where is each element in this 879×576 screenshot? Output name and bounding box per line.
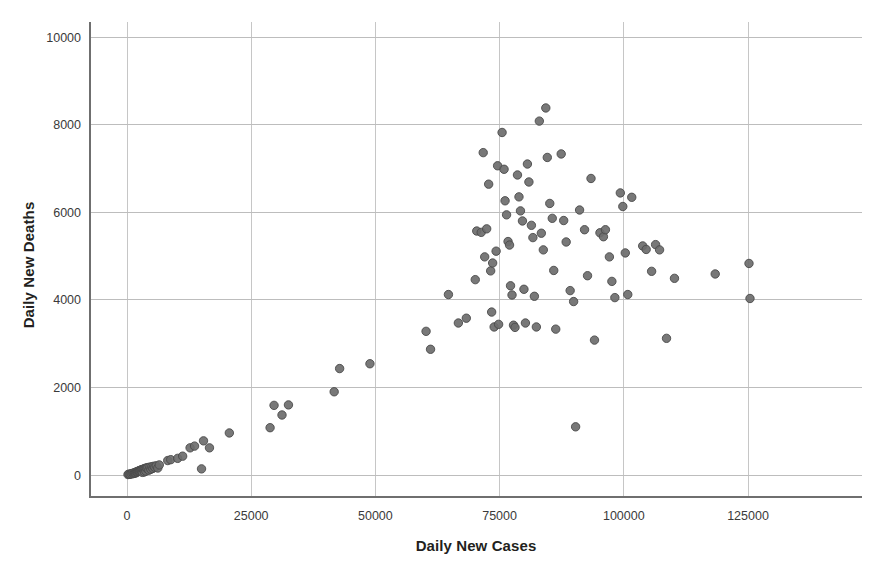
scatter-point (498, 128, 506, 136)
x-tick-label: 0 (124, 509, 131, 523)
scatter-point (539, 246, 547, 254)
y-tick-label: 4000 (53, 293, 81, 307)
scatter-point (552, 325, 560, 333)
scatter-point (508, 291, 516, 299)
scatter-point (527, 221, 535, 229)
scatter-point (330, 388, 338, 396)
scatter-point (501, 197, 509, 205)
scatter-point (494, 320, 502, 328)
figure-background (0, 0, 879, 576)
scatter-point (515, 193, 523, 201)
scatter-point (535, 117, 543, 125)
scatter-point (479, 148, 487, 156)
scatter-point (559, 216, 567, 224)
x-tick-label: 125000 (727, 509, 769, 523)
scatter-point (155, 461, 163, 469)
scatter-point (284, 401, 292, 409)
scatter-plot-figure: 0250005000075000100000125000 02000400060… (0, 0, 879, 576)
y-tick-label: 0 (74, 469, 81, 483)
scatter-point (454, 319, 462, 327)
scatter-point (670, 274, 678, 282)
y-axis-title: Daily New Deaths (20, 202, 37, 329)
scatter-point (426, 345, 434, 353)
scatter-point (520, 285, 528, 293)
scatter-point (605, 253, 613, 261)
scatter-point (575, 206, 583, 214)
scatter-point (619, 202, 627, 210)
scatter-point (205, 444, 213, 452)
scatter-point (492, 247, 500, 255)
scatter-point (532, 323, 540, 331)
scatter-point (557, 150, 565, 158)
scatter-point (569, 297, 577, 305)
scatter-point (197, 465, 205, 473)
y-tick-label: 10000 (46, 31, 81, 45)
scatter-point (530, 292, 538, 300)
scatter-point (746, 294, 754, 302)
scatter-point (270, 401, 278, 409)
scatter-point (647, 267, 655, 275)
scatter-point (266, 424, 274, 432)
scatter-point (482, 225, 490, 233)
scatter-point (616, 189, 624, 197)
y-tick-label: 8000 (53, 118, 81, 132)
scatter-point (366, 360, 374, 368)
scatter-point (525, 178, 533, 186)
scatter-point (511, 323, 519, 331)
scatter-point (500, 165, 508, 173)
x-axis-title: Daily New Cases (416, 537, 537, 554)
scatter-point (662, 334, 670, 342)
scatter-point (462, 314, 470, 322)
scatter-point (516, 207, 524, 215)
scatter-point (550, 266, 558, 274)
scatter-point (505, 241, 513, 249)
scatter-point (548, 214, 556, 222)
scatter-point (571, 423, 579, 431)
scatter-point (199, 437, 207, 445)
scatter-point (621, 249, 629, 257)
scatter-point (523, 160, 531, 168)
scatter-point (444, 290, 452, 298)
scatter-point (655, 246, 663, 254)
x-tick-label: 75000 (482, 509, 517, 523)
scatter-point (486, 267, 494, 275)
scatter-point (566, 286, 574, 294)
scatter-point (484, 180, 492, 188)
scatter-point (601, 226, 609, 234)
scatter-point (278, 411, 286, 419)
scatter-point (487, 308, 495, 316)
scatter-point (745, 259, 753, 267)
plot-canvas: 0250005000075000100000125000 02000400060… (0, 0, 879, 576)
scatter-point (335, 364, 343, 372)
scatter-point (642, 245, 650, 253)
scatter-point (608, 277, 616, 285)
x-tick-label: 50000 (358, 509, 393, 523)
scatter-point (422, 327, 430, 335)
scatter-point (529, 233, 537, 241)
scatter-point (628, 193, 636, 201)
scatter-point (178, 452, 186, 460)
scatter-point (506, 282, 514, 290)
y-tick-label: 2000 (53, 381, 81, 395)
scatter-point (711, 270, 719, 278)
scatter-point (502, 211, 510, 219)
scatter-point (518, 217, 526, 225)
scatter-point (611, 293, 619, 301)
scatter-point (190, 442, 198, 450)
scatter-point (488, 259, 496, 267)
scatter-point (580, 226, 588, 234)
scatter-point (583, 272, 591, 280)
scatter-point (543, 153, 551, 161)
y-tick-label: 6000 (53, 206, 81, 220)
scatter-point (481, 253, 489, 261)
scatter-point (546, 199, 554, 207)
scatter-point (542, 104, 550, 112)
scatter-point (513, 171, 521, 179)
scatter-point (590, 336, 598, 344)
x-tick-label: 100000 (603, 509, 645, 523)
scatter-point (624, 290, 632, 298)
scatter-point (471, 275, 479, 283)
scatter-point (562, 238, 570, 246)
scatter-point (537, 229, 545, 237)
scatter-point (587, 174, 595, 182)
